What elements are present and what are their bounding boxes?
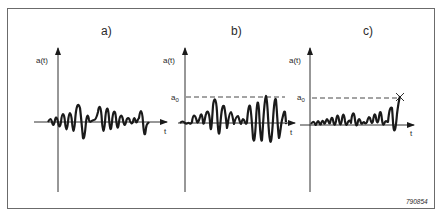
panel-b-label: b)	[231, 24, 242, 38]
panel-c-y-axis-label: a(t)	[289, 56, 301, 65]
panel-b-y-axis-label: a(t)	[163, 56, 175, 65]
panel-b: b) a(t) t a0	[163, 24, 295, 192]
figure-id-label: 790854	[406, 198, 428, 205]
panel-a-x-axis-label: t	[164, 127, 167, 136]
panel-b-x-axis-label: t	[290, 128, 293, 137]
panel-a-y-axis-label: a(t)	[36, 56, 48, 65]
panel-a: a) a(t) t	[34, 24, 167, 192]
figure-frame	[8, 9, 435, 209]
panel-c-threshold-label: a0	[297, 93, 305, 103]
panel-c-x-axis-label: t	[410, 129, 413, 138]
panel-a-label: a)	[101, 24, 112, 38]
panel-b-threshold-label: a0	[171, 93, 179, 103]
panel-b-signal	[180, 96, 286, 142]
figure: a) a(t) t b) a(t) t a0 c) a(t) t a0 7908…	[0, 0, 441, 220]
panel-c-label: c)	[363, 24, 373, 38]
panel-c: c) a(t) t a0	[289, 24, 414, 192]
